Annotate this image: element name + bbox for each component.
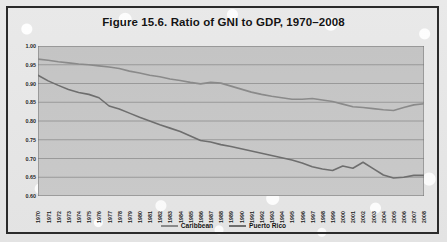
y-axis-tick-label: 0.65 (12, 174, 36, 180)
series-line-caribbean (38, 59, 424, 110)
y-axis-tick-label: 1.00 (12, 43, 36, 49)
figure-page: Figure 15.6. Ratio of GNI to GDP, 1970–2… (0, 0, 447, 242)
chart-canvas (38, 46, 424, 196)
legend-item-caribbean[interactable]: Caribbean (161, 222, 213, 229)
legend-label: Puerto Rico (249, 222, 286, 229)
y-axis-tick-label: 0.85 (12, 99, 36, 105)
page-title: Figure 15.6. Ratio of GNI to GDP, 1970–2… (0, 16, 447, 28)
x-axis: 1970197119721973197419751976197719781979… (38, 197, 424, 223)
series-line-puerto-rico (38, 75, 424, 178)
chart-legend: CaribbeanPuerto Rico (0, 222, 447, 229)
y-axis-tick-label: 0.70 (12, 156, 36, 162)
y-axis-tick-label: 0.80 (12, 118, 36, 124)
legend-item-puerto-rico[interactable]: Puerto Rico (229, 222, 286, 229)
y-axis-tick-label: 0.95 (12, 62, 36, 68)
legend-line-icon (229, 225, 246, 227)
y-axis: 1.000.950.900.850.800.750.700.650.60 (12, 46, 36, 196)
legend-line-icon (161, 225, 178, 227)
y-axis-tick-label: 0.90 (12, 81, 36, 87)
plot-area (38, 46, 424, 196)
legend-label: Caribbean (181, 222, 213, 229)
y-axis-tick-label: 0.75 (12, 137, 36, 143)
y-axis-tick-label: 0.60 (12, 193, 36, 199)
